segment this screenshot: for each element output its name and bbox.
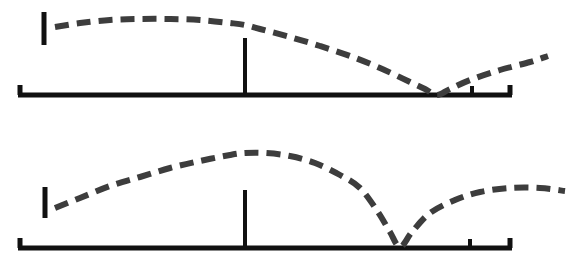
figure-root bbox=[0, 0, 576, 271]
top-panel-dashed-curve bbox=[55, 19, 548, 95]
top-panel-axis-group bbox=[18, 12, 512, 95]
top-panel-series-group bbox=[55, 19, 548, 95]
bottom-panel-series-group bbox=[55, 153, 565, 247]
bottom-panel-axis-group bbox=[18, 187, 512, 248]
bottom-panel bbox=[0, 135, 576, 271]
top-panel bbox=[0, 0, 576, 135]
bottom-panel-dashed-curve bbox=[55, 153, 565, 247]
